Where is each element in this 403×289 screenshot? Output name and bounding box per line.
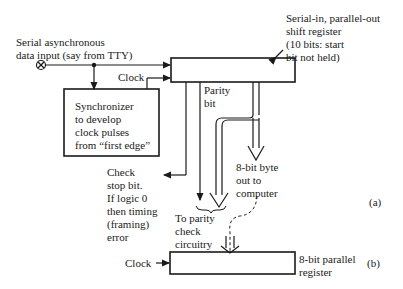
parity-line2: bit: [204, 97, 216, 110]
stop-check-line2: stop bit.: [107, 179, 142, 192]
parallel-register-box: [170, 252, 295, 274]
synchronizer-line2: to develop: [75, 113, 121, 126]
parallel-register-line2: register: [299, 266, 332, 279]
synchronizer-line1: Synchronizer: [75, 100, 134, 113]
clock-bottom-label: Clock: [125, 257, 151, 270]
stop-check-line3: If logic 0: [107, 192, 147, 205]
byte-out-line2: out to: [236, 174, 261, 187]
shift-register-label-line3: (10 bits: start: [286, 38, 344, 51]
byte-out-line1: 8-bit byte: [236, 161, 278, 174]
parity-check-line3: circuitry: [175, 238, 212, 251]
parity-line1: Parity: [204, 84, 230, 97]
shift-register-box: [171, 58, 295, 82]
stop-check-line6: error: [107, 231, 128, 244]
shift-register-label-line1: Serial-in, parallel-out: [286, 12, 380, 25]
part-a-label: (a): [369, 196, 381, 209]
parity-check-line2: check: [175, 225, 201, 238]
shift-register-label-line2: shift register: [286, 25, 341, 38]
input-label-line1: Serial asynchronous: [16, 36, 105, 49]
byte-out-line3: computer: [236, 187, 278, 200]
stop-check-line1: Check: [107, 166, 135, 179]
clock-top-label: Clock: [118, 71, 144, 84]
synchronizer-line3: clock pulses: [75, 126, 129, 139]
stop-check-line5: (framing): [107, 218, 149, 231]
synchronizer-line4: from “first edge”: [75, 139, 150, 152]
stop-check-line4: then timing: [107, 205, 157, 218]
parity-check-line1: To parity: [175, 212, 215, 225]
shift-register-label-line4: bit not held): [286, 51, 340, 64]
parallel-register-line1: 8-bit parallel: [299, 253, 356, 266]
input-label-line2: data input (say from TTY): [16, 49, 133, 62]
part-b-label: (b): [367, 257, 380, 270]
